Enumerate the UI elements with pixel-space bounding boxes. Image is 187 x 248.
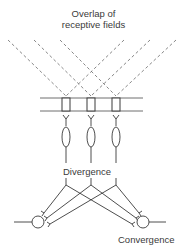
title-line-1: Overlap of	[0, 8, 187, 19]
neural-divergence-convergence-diagram	[0, 0, 187, 248]
receptor-boxes	[62, 98, 120, 111]
receptive-field-lines	[8, 40, 176, 96]
right-neuron-body	[137, 216, 149, 228]
title-line-2: receptive fields	[0, 19, 187, 30]
left-neuron-body	[32, 216, 44, 228]
convergence-neurons	[14, 216, 166, 228]
convergence-label: Convergence	[118, 234, 175, 245]
convergence-pathways	[41, 185, 142, 227]
divergence-label: Divergence	[63, 166, 111, 177]
